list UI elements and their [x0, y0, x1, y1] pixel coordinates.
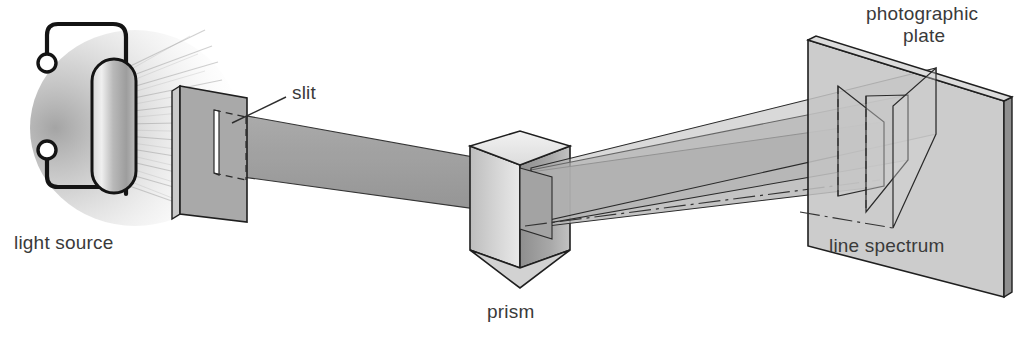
discharge-tube	[92, 59, 136, 193]
line-spectrum-label: line spectrum	[829, 235, 945, 256]
light-source-label: light source	[14, 232, 114, 253]
spectroscope-diagram: slit	[0, 0, 1019, 347]
diagram-canvas: slit	[0, 0, 1019, 347]
slit-plate	[172, 86, 247, 222]
slit-aperture	[214, 110, 219, 175]
terminal-top	[38, 54, 56, 72]
prism-label: prism	[487, 301, 534, 322]
incident-beam	[214, 110, 512, 214]
photographic-plate-label-line1: photographic	[866, 3, 978, 24]
photographic-plate-label-line2: plate	[903, 25, 945, 46]
slit-label: slit	[292, 82, 317, 103]
terminal-bottom	[38, 141, 56, 159]
